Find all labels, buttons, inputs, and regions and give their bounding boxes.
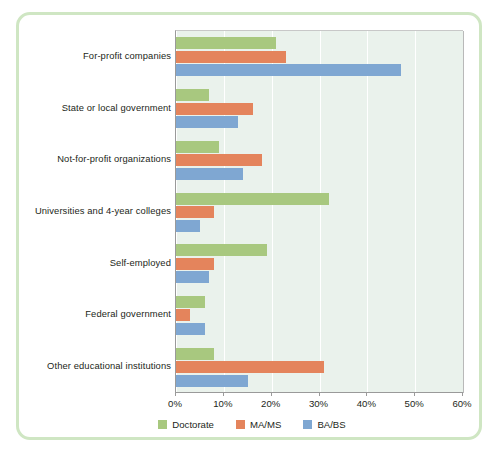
bar-doctorate — [176, 37, 276, 49]
chart-legend: DoctorateMA/MSBA/BS — [19, 414, 485, 434]
plot-area — [175, 30, 463, 393]
bar-ma-ms — [176, 361, 324, 373]
x-tick-label: 20% — [249, 398, 293, 409]
category-label: Federal government — [19, 308, 171, 319]
x-tick-label: 0% — [153, 398, 197, 409]
gridline — [463, 31, 464, 393]
bar-group — [176, 348, 463, 387]
legend-label: MA/MS — [250, 419, 281, 430]
x-tick-mark — [414, 392, 415, 396]
bar-ma-ms — [176, 154, 262, 166]
x-tick-label: 10% — [201, 398, 245, 409]
legend-swatch-icon — [303, 420, 312, 429]
x-tick-mark — [366, 392, 367, 396]
legend-swatch-icon — [158, 420, 167, 429]
bar-doctorate — [176, 296, 205, 308]
legend-item[interactable]: BA/BS — [303, 419, 345, 430]
category-label: For-profit companies — [19, 50, 171, 61]
legend-label: Doctorate — [172, 419, 214, 430]
bar-ma-ms — [176, 258, 214, 270]
x-tick-label: 30% — [297, 398, 341, 409]
x-tick-mark — [462, 392, 463, 396]
bar-ma-ms — [176, 51, 286, 63]
bar-group — [176, 193, 463, 232]
bar-ba-bs — [176, 64, 401, 76]
bar-ma-ms — [176, 309, 190, 321]
bar-ma-ms — [176, 103, 253, 115]
bar-ba-bs — [176, 220, 200, 232]
bar-group — [176, 37, 463, 76]
x-tick-label: 60% — [440, 398, 484, 409]
x-tick-mark — [271, 392, 272, 396]
bar-doctorate — [176, 141, 219, 153]
plot-inner — [176, 31, 463, 393]
category-axis-labels: For-profit companiesState or local gover… — [19, 30, 171, 392]
bar-group — [176, 296, 463, 335]
bar-doctorate — [176, 348, 214, 360]
bar-ba-bs — [176, 375, 248, 387]
category-label: Self-employed — [19, 257, 171, 268]
legend-item[interactable]: MA/MS — [236, 419, 281, 430]
figure-frame: For-profit companiesState or local gover… — [16, 12, 482, 440]
legend-label: BA/BS — [317, 419, 345, 430]
legend-swatch-icon — [236, 420, 245, 429]
bar-group — [176, 244, 463, 283]
category-label: State or local government — [19, 102, 171, 113]
bar-ba-bs — [176, 323, 205, 335]
x-tick-mark — [175, 392, 176, 396]
legend-item[interactable]: Doctorate — [158, 419, 214, 430]
bar-chart: For-profit companiesState or local gover… — [19, 15, 485, 443]
bar-group — [176, 89, 463, 128]
x-tick-label: 50% — [392, 398, 436, 409]
category-label: Universities and 4-year colleges — [19, 205, 171, 216]
x-tick-mark — [319, 392, 320, 396]
bar-doctorate — [176, 193, 329, 205]
bar-ma-ms — [176, 206, 214, 218]
category-label: Other educational institutions — [19, 360, 171, 371]
bar-ba-bs — [176, 168, 243, 180]
x-tick-mark — [223, 392, 224, 396]
bar-ba-bs — [176, 271, 209, 283]
bar-doctorate — [176, 244, 267, 256]
x-tick-label: 40% — [344, 398, 388, 409]
bar-doctorate — [176, 89, 209, 101]
category-label: Not-for-profit organizations — [19, 153, 171, 164]
bar-ba-bs — [176, 116, 238, 128]
bar-group — [176, 141, 463, 180]
